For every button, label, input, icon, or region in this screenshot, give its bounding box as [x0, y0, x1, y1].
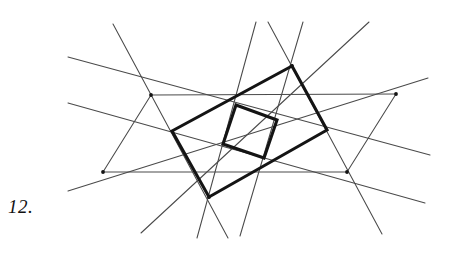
geometry-diagram [0, 0, 452, 257]
diagram-background [0, 0, 452, 257]
vertex-dot-0 [149, 93, 153, 97]
vertex-dot-5 [207, 195, 211, 199]
vertex-dot-1 [394, 92, 398, 96]
geometry-figure-container: 12. [0, 0, 452, 257]
vertex-dot-3 [345, 170, 349, 174]
vertex-dot-2 [101, 170, 105, 174]
problem-number-label: 12. [8, 196, 33, 218]
vertex-dot-4 [290, 64, 294, 68]
